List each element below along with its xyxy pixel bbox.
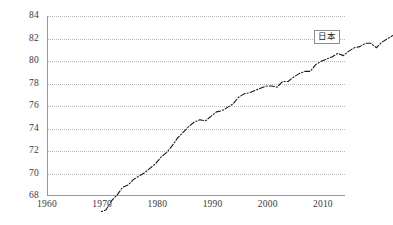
x-axis-labels: 196019701980199020002010 [47, 199, 345, 215]
series-line-japan [95, 32, 393, 212]
x-tick-label-1990: 1990 [203, 199, 223, 210]
y-tick-label-70: 70 [0, 169, 39, 179]
x-tick-label-2000: 2000 [258, 199, 278, 210]
x-tick-label-1980: 1980 [147, 199, 167, 210]
y-axis-labels: 687072747678808284 [0, 16, 43, 196]
y-tick-label-74: 74 [0, 124, 39, 134]
legend-japan: 日本 [314, 30, 340, 44]
x-tick-label-1960: 1960 [37, 199, 57, 210]
x-tick-label-2010: 2010 [313, 199, 333, 210]
y-tick-label-72: 72 [0, 146, 39, 156]
y-tick-label-68: 68 [0, 191, 39, 201]
y-tick-label-78: 78 [0, 79, 39, 89]
gridline-y-84 [48, 16, 345, 17]
y-tick-label-84: 84 [0, 11, 39, 21]
x-tick-label-1970: 1970 [92, 199, 112, 210]
y-tick-label-80: 80 [0, 56, 39, 66]
y-tick-label-76: 76 [0, 101, 39, 111]
y-tick-label-82: 82 [0, 34, 39, 44]
plot-area [47, 16, 345, 196]
